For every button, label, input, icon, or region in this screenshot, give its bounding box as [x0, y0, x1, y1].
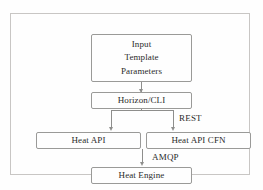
- edge-horizon-to-heat-api-line: [111, 110, 112, 128]
- node-heat-api-cfn: Heat API CFN: [146, 132, 251, 149]
- node-horizon-cli: Horizon/CLI: [91, 92, 192, 109]
- node-input-template-parameters: Input Template Parameters: [91, 34, 192, 82]
- edge-api-to-heat-engine-arrowhead-icon: [140, 162, 144, 166]
- edge-horizon-to-heat-api-cfn-line: [173, 110, 174, 128]
- node-input-template-parameters-line-1: Input: [132, 38, 152, 51]
- node-input-template-parameters-line-2: Template: [124, 51, 158, 64]
- node-heat-engine: Heat Engine: [91, 167, 192, 184]
- edge-label-rest: REST: [179, 113, 202, 123]
- edge-horizon-to-heat-api-arrowhead-icon: [109, 127, 113, 131]
- edge-api-to-heat-engine-line: [142, 149, 143, 163]
- edge-horizon-to-heat-api-cfn-arrowhead-icon: [171, 127, 175, 131]
- node-horizon-cli-label: Horizon/CLI: [118, 94, 166, 107]
- node-input-template-parameters-line-3: Parameters: [121, 65, 162, 78]
- node-heat-api-label: Heat API: [71, 134, 105, 147]
- node-heat-api: Heat API: [36, 132, 141, 149]
- heat-architecture-diagram: Input Template Parameters Horizon/CLI RE…: [0, 0, 263, 190]
- edge-horizon-branch-bar: [111, 110, 174, 111]
- node-heat-engine-label: Heat Engine: [119, 169, 165, 182]
- diagram-frame: Input Template Parameters Horizon/CLI RE…: [10, 13, 250, 175]
- node-heat-api-cfn-label: Heat API CFN: [171, 134, 225, 147]
- edge-label-amqp: AMQP: [152, 152, 179, 162]
